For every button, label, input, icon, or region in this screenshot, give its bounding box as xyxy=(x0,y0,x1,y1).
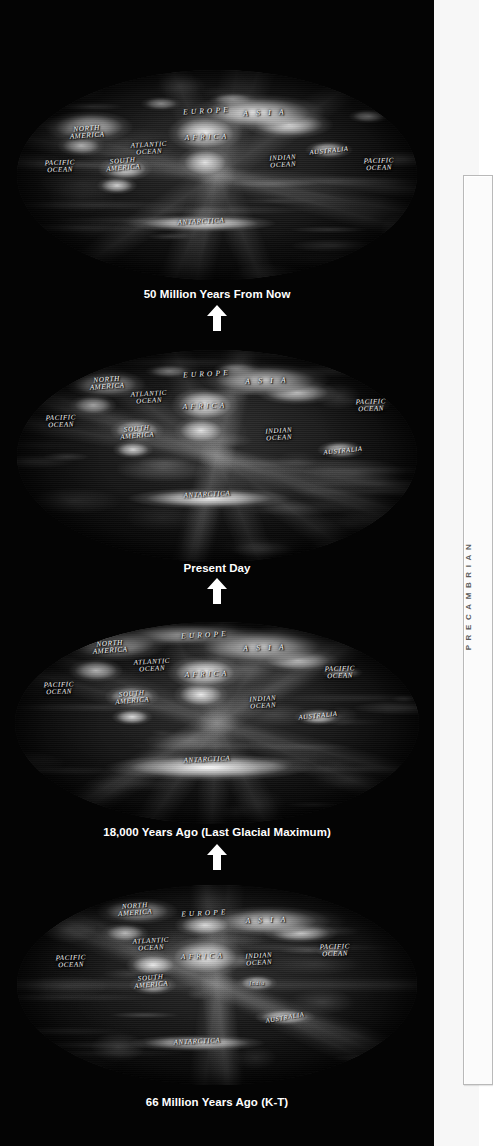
world-map-map-kt: NORTH AMERICAEUROPEA S I AAFRICAATLANTIC… xyxy=(17,885,417,1085)
map-caption-map-lgm: 18,000 Years Ago (Last Glacial Maximum) xyxy=(0,826,434,838)
up-arrow-icon xyxy=(206,305,228,331)
up-arrow-icon xyxy=(206,844,228,870)
world-map-map-present: NORTH AMERICAEUROPEA S I AAFRICAATLANTIC… xyxy=(17,350,417,562)
map-caption-map-future: 50 Million Years From Now xyxy=(0,288,434,300)
world-map-map-lgm: NORTH AMERICAEUROPEA S I AAFRICAATLANTIC… xyxy=(15,622,419,824)
map-relief-texture xyxy=(17,350,417,562)
map-relief-texture xyxy=(17,885,417,1085)
world-map-map-future: NORTH AMERICAEUROPEA S I AAFRICAATLANTIC… xyxy=(17,70,417,280)
map-caption-map-present: Present Day xyxy=(0,562,434,574)
map-relief-texture xyxy=(15,622,419,824)
up-arrow-icon xyxy=(206,578,228,604)
map-relief-texture xyxy=(17,70,417,280)
globe-plate: NORTH AMERICAEUROPEA S I AAFRICAATLANTIC… xyxy=(0,0,434,1146)
era-label-precambrian: PRECAMBRIAN xyxy=(462,500,476,690)
map-caption-map-kt: 66 Million Years Ago (K-T) xyxy=(0,1096,434,1108)
